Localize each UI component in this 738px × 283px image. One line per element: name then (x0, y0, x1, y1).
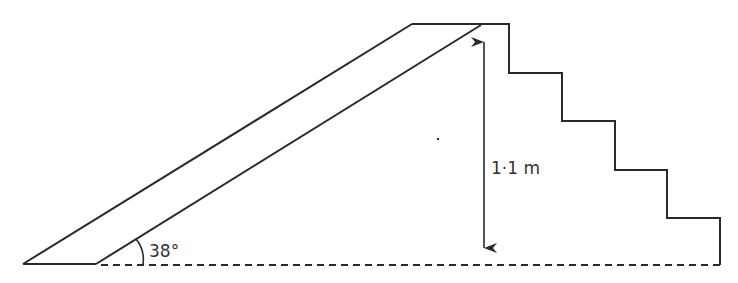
stairs (509, 24, 720, 265)
ramp (23, 24, 510, 264)
stray-dot (437, 138, 439, 140)
ramp-steps-diagram: 38° 1·1 m (0, 0, 738, 283)
ramp-outer-slope (23, 24, 412, 264)
ramp-inner-slope (96, 25, 481, 264)
angle-label: 38° (149, 241, 179, 261)
angle-arc (136, 239, 143, 264)
height-label: 1·1 m (491, 158, 540, 178)
